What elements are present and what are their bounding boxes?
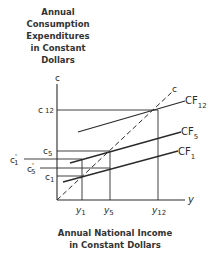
c5-tick-label: c5 <box>43 146 52 158</box>
c12-tick-label: c12 <box>38 105 54 115</box>
c1-prime-tick-label: c'1 <box>10 153 18 167</box>
c1-tick-label: c1 <box>45 172 54 184</box>
y1-tick-label: y1 <box>75 205 86 217</box>
cf5-label: CF5 <box>181 126 198 141</box>
y-axis-symbol: c <box>55 73 60 83</box>
cf1-label: CF1 <box>178 146 195 161</box>
y12-tick-label: y12 <box>151 205 166 217</box>
cf5-line <box>70 132 181 163</box>
c5-prime-tick-label: c'5 <box>27 162 35 176</box>
consumption-function-diagram: c y c CF12 CF5 CF1 c12 c5 c'1 c'5 c1 y1 … <box>0 0 209 260</box>
45-degree-line <box>57 92 172 200</box>
diagonal-label: c <box>172 84 177 94</box>
x-axis-symbol: y <box>187 194 195 205</box>
cf12-line <box>78 101 185 132</box>
cf12-label: CF12 <box>185 95 207 110</box>
cf1-line <box>63 151 178 182</box>
x-axis-title: Annual National Income in Constant Dolla… <box>40 227 190 251</box>
x-title-line: in Constant Dollars <box>40 239 190 251</box>
y5-tick-label: y5 <box>103 205 114 217</box>
x-title-line: Annual National Income <box>40 227 190 239</box>
